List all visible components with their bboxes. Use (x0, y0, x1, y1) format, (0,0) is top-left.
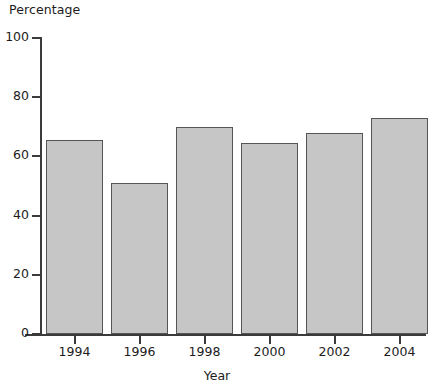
x-tick-mark (269, 336, 271, 344)
bar (241, 143, 298, 334)
x-tick-mark (204, 336, 206, 344)
x-tick-mark (399, 336, 401, 344)
x-tick-label: 2000 (254, 346, 286, 359)
x-axis-title: Year (0, 368, 434, 383)
bar (306, 133, 363, 334)
x-tick-mark (139, 336, 141, 344)
x-tick-label: 2004 (384, 346, 416, 359)
bar (176, 127, 233, 334)
x-tick-label: 2002 (319, 346, 351, 359)
bar (46, 140, 103, 334)
bar (371, 118, 428, 334)
x-tick-label: 1998 (189, 346, 221, 359)
x-tick-label: 1996 (124, 346, 156, 359)
x-tick-label: 1994 (59, 346, 91, 359)
x-tick-mark (74, 336, 76, 344)
bar (111, 183, 168, 334)
x-axis-line (25, 334, 426, 336)
bar-series (0, 0, 434, 334)
bar-chart: Percentage 020406080100 1994199619982000… (0, 0, 434, 387)
x-tick-mark (334, 336, 336, 344)
